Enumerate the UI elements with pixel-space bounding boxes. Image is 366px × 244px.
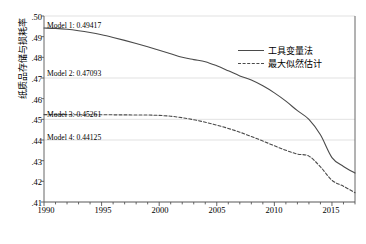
chart-legend: 工具变量法 最大似然估计 bbox=[238, 44, 322, 70]
annotation-model4: Model 4: 0.44125 bbox=[47, 133, 101, 142]
legend-line-dashed-icon bbox=[238, 63, 264, 64]
legend-item-mle: 最大似然估计 bbox=[238, 57, 322, 70]
legend-item-iv: 工具变量法 bbox=[238, 44, 322, 57]
plot-area bbox=[0, 0, 366, 244]
annotation-model3: Model 3: 0.45261 bbox=[47, 110, 101, 119]
legend-line-solid-icon bbox=[238, 50, 264, 51]
annotation-model2: Model 2: 0.47093 bbox=[47, 69, 101, 78]
annotation-model1: Model 1: 0.49417 bbox=[47, 21, 101, 30]
legend-label: 工具变量法 bbox=[268, 44, 313, 57]
legend-label: 最大似然估计 bbox=[268, 57, 322, 70]
chart-figure: 纸质品存储与损耗率 .50 .49 .48 .47 .46 .45 .44 .4… bbox=[0, 0, 366, 244]
